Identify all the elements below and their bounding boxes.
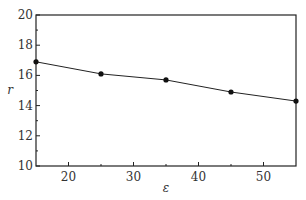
y-tick-label: 20 xyxy=(18,8,33,22)
y-tick-label: 12 xyxy=(18,129,33,143)
line-chart: 101214161820 20304050 ε r xyxy=(0,0,306,200)
y-tick-label: 18 xyxy=(18,38,33,52)
y-tick-label: 16 xyxy=(18,68,33,82)
data-point xyxy=(33,59,38,64)
data-point xyxy=(228,89,233,94)
x-tick-label: 20 xyxy=(61,170,76,184)
plot-frame xyxy=(36,15,296,166)
data-point xyxy=(98,71,103,76)
x-tick-label: 30 xyxy=(126,170,141,184)
x-axis-label: ε xyxy=(163,181,169,195)
y-tick-label: 10 xyxy=(18,159,33,173)
data-point xyxy=(293,98,298,103)
y-tick-label: 14 xyxy=(18,99,34,113)
y-axis-ticks: 101214161820 xyxy=(18,8,40,173)
y-axis-label: r xyxy=(7,83,14,97)
data-markers xyxy=(33,59,298,103)
x-tick-label: 40 xyxy=(191,170,206,184)
x-tick-label: 50 xyxy=(256,170,271,184)
data-point xyxy=(163,77,168,82)
